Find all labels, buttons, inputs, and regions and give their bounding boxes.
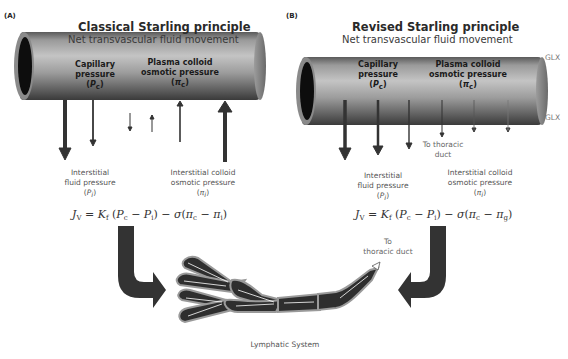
- panel-b-title: Revised Starling principle: [352, 20, 482, 34]
- lymphatic-system-label: Lymphatic System: [240, 340, 330, 350]
- panel-b-formula: JV = Kf (Pc − Pi) − σ(πc − πg): [355, 208, 512, 222]
- glx-label-top: GLX: [545, 53, 560, 62]
- panel-a-interstitial-colloid: Interstitial colloid osmotic pressure (π…: [163, 168, 243, 200]
- panel-a-capillary-pressure: Capillary pressure (Pc): [70, 60, 120, 92]
- lymph-to-thoracic-duct: To thoracic duct: [358, 237, 418, 257]
- panel-b-subtitle: Net transvascular fluid movement: [342, 34, 492, 45]
- panel-b-label: (B): [286, 12, 298, 20]
- left-flow-arrow: [118, 226, 166, 308]
- panel-b-to-thoracic-duct: To thoracic duct: [415, 140, 471, 160]
- panel-a-interstitial-fluid: Interstitial fluid pressure (Pi): [60, 168, 120, 200]
- panel-a-label: (A): [4, 12, 16, 20]
- panel-a-title: Classical Starling principle: [78, 20, 208, 34]
- panel-b-plasma-colloid: Plasma colloid osmotic pressure (πc): [428, 60, 508, 92]
- arrows-a: [59, 100, 232, 162]
- panel-a-plasma-colloid: Plasma colloid osmotic pressure (πc): [140, 58, 220, 90]
- glx-label-bottom: GLX: [545, 113, 560, 122]
- lymphatic-vessels: [177, 257, 378, 322]
- panel-a-subtitle: Net transvascular fluid movement: [68, 34, 218, 45]
- panel-a-formula: JV = Kf (Pc − Pi) − σ(πc − πi): [72, 208, 227, 222]
- panel-b-interstitial-colloid: Interstitial colloid osmotic pressure (π…: [440, 168, 520, 200]
- vessel-b: [296, 57, 548, 125]
- panel-b-capillary-pressure: Capillary pressure (Pc): [353, 60, 403, 92]
- panel-b-interstitial-fluid: Interstitial fluid pressure (Pi): [353, 171, 413, 203]
